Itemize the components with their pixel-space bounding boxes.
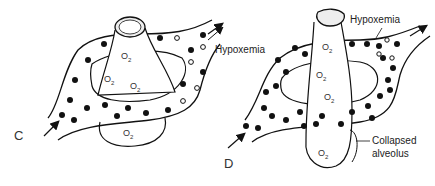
panel-d-o2-label: O2 bbox=[324, 92, 334, 104]
alveolus-diagram: C Hypoxemia O2 O2 O2 O2 D Hypoxemia O2 O… bbox=[0, 0, 435, 186]
collapsed-alveolus-label-line2: alveolus bbox=[372, 148, 409, 160]
panel-d-outflow-arrow bbox=[410, 26, 426, 36]
panel-c-inflow-arrow bbox=[44, 122, 58, 136]
panel-d-o2-label: O2 bbox=[316, 70, 326, 82]
panel-d-o2-label: O2 bbox=[322, 42, 332, 54]
panel-c-o2-label: O2 bbox=[121, 51, 131, 63]
collapsed-alveolus-label-line1: Collapsed bbox=[372, 135, 416, 147]
panel-d-alveolus-opening bbox=[317, 9, 345, 26]
panel-d-label: D bbox=[224, 156, 233, 171]
panel-c-outflow-arrow bbox=[208, 24, 222, 34]
panel-c-o2-label: O2 bbox=[130, 81, 140, 93]
panel-d-inflow-arrow bbox=[228, 134, 244, 148]
panel-c-o2-label: O2 bbox=[104, 74, 114, 86]
panel-c-deoxygenated-dots bbox=[175, 36, 206, 104]
panel-d-top-arrow bbox=[208, 28, 222, 40]
panel-d-hypoxemia-label: Hypoxemia bbox=[350, 14, 400, 26]
panel-c-label: C bbox=[14, 128, 23, 143]
panel-d-o2-label: O2 bbox=[318, 148, 328, 160]
panel-c-o2-label: O2 bbox=[123, 128, 133, 140]
panel-c-hypoxemia-label: Hypoxemia bbox=[215, 44, 265, 56]
diagram-drawing bbox=[0, 0, 435, 186]
panel-d-hypoxemia-line bbox=[376, 28, 382, 38]
